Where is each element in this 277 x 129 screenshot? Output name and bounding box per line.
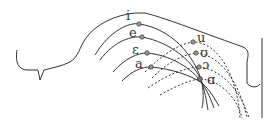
vowel-dot-open-o <box>197 65 201 69</box>
vowel-dot-i <box>137 22 141 26</box>
vowel-diagram: i e ε a u ʊ ɔ ɑ <box>0 0 277 129</box>
vowel-label-a: a <box>135 56 143 71</box>
vowel-label-epsilon: ε <box>132 42 139 57</box>
vowel-dot-script-a <box>198 77 203 82</box>
vowel-label-e: e <box>129 25 137 40</box>
vowel-dot-epsilon <box>145 51 149 55</box>
vowel-label-script-a: ɑ <box>207 72 215 87</box>
vowel-label-u: u <box>197 30 205 45</box>
vowel-dot-e <box>140 35 144 39</box>
vowel-dot-u <box>191 40 195 44</box>
vowel-dot-a <box>149 65 153 69</box>
front-vowel-markers: i e ε a <box>126 8 153 71</box>
vowel-label-i: i <box>126 8 130 23</box>
vowel-dot-upsilon <box>194 51 198 55</box>
vowel-label-open-o: ɔ <box>202 57 209 72</box>
vowel-diagram-svg: i e ε a u ʊ ɔ ɑ <box>0 0 277 129</box>
